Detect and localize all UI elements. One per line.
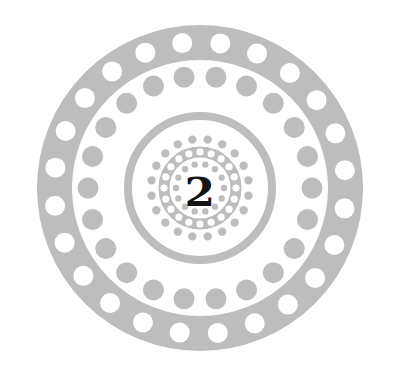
dot	[95, 117, 116, 138]
dot	[263, 93, 284, 114]
dot	[245, 313, 265, 333]
dot	[191, 208, 197, 214]
dot	[175, 155, 182, 162]
dot	[218, 227, 226, 235]
dot	[100, 293, 120, 313]
gray-dot-ring	[78, 67, 323, 310]
dot	[203, 135, 211, 143]
dot	[188, 232, 196, 240]
dot	[82, 209, 103, 230]
dot	[302, 178, 323, 199]
dot	[196, 220, 203, 227]
dot	[116, 93, 137, 114]
dot	[170, 323, 190, 343]
dot	[173, 185, 179, 191]
dot	[45, 158, 65, 178]
innermost-gray-dots	[173, 161, 227, 214]
dot	[102, 61, 122, 81]
dot	[324, 235, 344, 255]
dot	[182, 204, 188, 210]
dot	[174, 288, 195, 309]
dot	[147, 176, 155, 184]
dot	[226, 206, 233, 213]
dot	[56, 121, 76, 141]
dot	[284, 238, 305, 259]
dot	[218, 195, 224, 201]
dot	[133, 312, 153, 332]
dot	[95, 238, 116, 259]
dot	[143, 76, 164, 97]
dot	[175, 174, 181, 180]
dot	[230, 149, 238, 157]
dot	[218, 214, 225, 221]
dot	[135, 43, 155, 63]
dot	[174, 140, 182, 148]
dot	[162, 196, 169, 203]
dot	[297, 146, 318, 167]
dot	[305, 268, 325, 288]
dot	[239, 162, 247, 170]
dot	[202, 208, 208, 214]
dot	[175, 195, 181, 201]
dot	[232, 184, 239, 191]
dot	[231, 173, 238, 180]
dot	[55, 233, 75, 253]
dot	[208, 150, 215, 157]
dot	[161, 218, 169, 226]
dot	[236, 279, 257, 300]
dot	[212, 166, 218, 172]
dot	[162, 173, 169, 180]
dot	[167, 163, 174, 170]
dot	[174, 67, 195, 88]
dot	[73, 266, 93, 286]
dot	[172, 33, 192, 53]
dot	[152, 206, 160, 214]
dot	[230, 218, 238, 226]
dot	[202, 161, 208, 167]
dot	[205, 288, 226, 309]
dot	[191, 161, 197, 167]
dot	[218, 155, 225, 162]
dot	[297, 209, 318, 230]
dot	[185, 219, 192, 226]
dot	[335, 198, 355, 218]
middle-band	[128, 116, 272, 260]
dot	[244, 191, 252, 199]
dot	[78, 178, 99, 199]
dot	[175, 214, 182, 221]
dot	[247, 44, 267, 64]
dot	[210, 33, 230, 53]
dot	[116, 262, 137, 283]
dot	[75, 88, 95, 108]
dot	[147, 191, 155, 199]
dot	[212, 204, 218, 210]
dot	[188, 135, 196, 143]
dot	[335, 160, 355, 180]
dot	[236, 76, 257, 97]
dot	[182, 166, 188, 172]
dot	[280, 63, 300, 83]
dot	[218, 140, 226, 148]
dot	[208, 323, 228, 343]
dot	[167, 206, 174, 213]
dot	[82, 146, 103, 167]
dot	[284, 117, 305, 138]
dot	[174, 227, 182, 235]
dot	[196, 148, 203, 155]
dot	[205, 67, 226, 88]
dot	[307, 90, 327, 110]
dot	[208, 219, 215, 226]
dot	[161, 149, 169, 157]
dot	[185, 150, 192, 157]
dotted-circle-badge	[0, 0, 401, 380]
dot	[45, 196, 65, 216]
dot	[160, 184, 167, 191]
dot	[203, 232, 211, 240]
dot	[231, 196, 238, 203]
dot	[152, 162, 160, 170]
dot	[278, 295, 298, 315]
dot	[143, 279, 164, 300]
dot	[218, 174, 224, 180]
dot	[221, 185, 227, 191]
dot	[226, 163, 233, 170]
